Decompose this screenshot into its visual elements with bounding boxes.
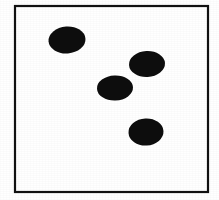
dot-pattern-figure (0, 0, 219, 200)
figure-container: Dot pattern figure Square outlined frame… (0, 0, 219, 200)
